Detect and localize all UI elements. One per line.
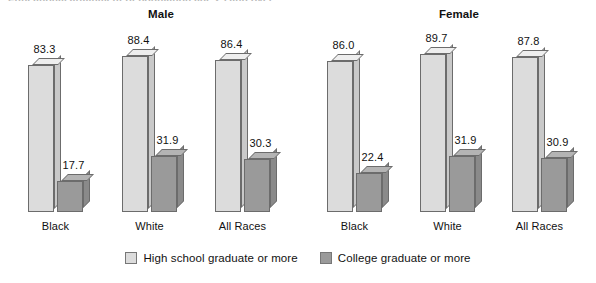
group-label-white: White: [105, 220, 195, 232]
legend-item-high-school: High school graduate or more: [125, 252, 297, 264]
bar-value-label: 87.8: [504, 35, 554, 47]
bar-value-label: 30.9: [533, 136, 583, 148]
bar-value-label: 83.3: [20, 43, 70, 55]
bar-value-label: 86.0: [319, 39, 369, 51]
bar-female-black-college: [356, 173, 382, 212]
group-label-all-races: All Races: [198, 220, 288, 232]
bar-value-label: 22.4: [348, 151, 398, 163]
legend-swatch-icon: [320, 252, 332, 264]
plot-area: 83.317.7Black88.431.9White86.430.3All Ra…: [0, 0, 596, 283]
bar-female-all-races-college: [541, 158, 567, 212]
group-label-black: Black: [11, 220, 101, 232]
bar-front-face: [151, 156, 177, 212]
legend-item-college: College graduate or more: [320, 252, 471, 264]
bar-male-black-college: [57, 181, 83, 212]
bar-front-face: [57, 181, 83, 212]
legend-label: College graduate or more: [338, 252, 471, 264]
grouped-bar-chart: Educational attainment of population age…: [0, 0, 596, 283]
bar-value-label: 31.9: [143, 134, 193, 146]
legend-label: High school graduate or more: [143, 252, 297, 264]
bar-value-label: 89.7: [412, 32, 462, 44]
bar-front-face: [244, 159, 270, 212]
bar-female-black-high-school: [327, 61, 353, 212]
bar-male-black-high-school: [28, 65, 54, 212]
bar-value-label: 88.4: [114, 34, 164, 46]
bar-value-label: 30.3: [236, 137, 286, 149]
bar-value-label: 17.7: [49, 159, 99, 171]
bar-value-label: 86.4: [207, 38, 257, 50]
group-label-all-races: All Races: [495, 220, 585, 232]
bar-male-all-races-college: [244, 159, 270, 212]
bar-front-face: [356, 173, 382, 212]
bar-front-face: [541, 158, 567, 212]
legend-swatch-icon: [125, 252, 137, 264]
group-label-black: Black: [310, 220, 400, 232]
bar-value-label: 31.9: [441, 134, 491, 146]
bar-front-face: [449, 156, 475, 212]
bar-front-face: [327, 61, 353, 212]
bar-female-white-college: [449, 156, 475, 212]
group-label-white: White: [403, 220, 493, 232]
chart-legend: High school graduate or more College gra…: [0, 252, 596, 264]
bar-front-face: [28, 65, 54, 212]
bar-male-white-college: [151, 156, 177, 212]
